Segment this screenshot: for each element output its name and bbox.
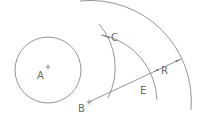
point-a-marker (46, 65, 51, 70)
label-b: B (78, 103, 85, 114)
arrowhead-outer-end (175, 59, 181, 62)
arrowhead-e-end (153, 69, 159, 72)
label-a: A (37, 70, 44, 81)
label-e: E (140, 85, 146, 96)
arc-outer-about-b (80, 0, 191, 110)
circle-a (15, 37, 81, 103)
label-c: C (111, 32, 118, 43)
label-r: R (161, 65, 168, 76)
geometry-diagram: A C B R E (0, 0, 202, 119)
